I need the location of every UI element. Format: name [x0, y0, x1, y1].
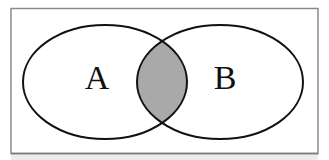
- set-b-label: B: [214, 59, 237, 96]
- set-a-label: A: [85, 59, 110, 96]
- venn-diagram: A B: [0, 0, 329, 160]
- venn-svg: A B: [0, 0, 329, 160]
